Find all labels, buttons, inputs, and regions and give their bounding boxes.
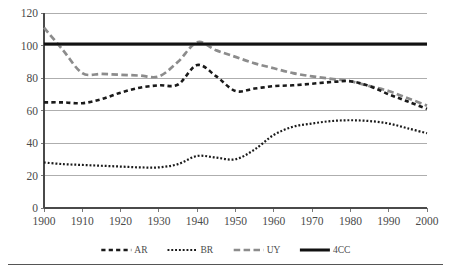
y-tick-label: 40 <box>27 137 39 149</box>
x-tick-label: 1910 <box>71 215 94 227</box>
y-tick-label: 60 <box>27 105 39 117</box>
series-line-uy <box>44 28 427 106</box>
x-tick-label: 1990 <box>377 215 400 227</box>
x-tick-label: 1960 <box>262 215 285 227</box>
y-axis-tick-labels: 020406080100120 <box>21 7 39 214</box>
y-tick-label: 20 <box>27 170 39 182</box>
y-tick-label: 100 <box>21 40 39 52</box>
x-tick-label: 1940 <box>186 215 209 227</box>
x-tick-label: 1950 <box>224 215 247 227</box>
legend-label-ar: AR <box>134 245 148 255</box>
series-line-br <box>44 120 427 167</box>
x-tick-label: 1900 <box>33 215 56 227</box>
chart-figure: 020406080100120 190019101920193019401950… <box>0 0 451 275</box>
y-tick-label: 120 <box>21 7 39 19</box>
gridlines <box>44 13 427 176</box>
x-tick-label: 1930 <box>147 215 170 227</box>
x-tick-label: 2000 <box>416 215 439 227</box>
x-axis-tick-labels: 1900191019201930194019501960197019801990… <box>33 215 439 227</box>
y-tick-label: 0 <box>32 202 38 214</box>
x-tick-label: 1980 <box>339 215 362 227</box>
legend-label-br: BR <box>201 245 214 255</box>
legend-label-uy: UY <box>267 245 281 255</box>
y-tick-label: 80 <box>27 72 39 84</box>
x-tick-label: 1970 <box>301 215 324 227</box>
line-chart: 020406080100120 190019101920193019401950… <box>0 0 451 275</box>
x-tick-label: 1920 <box>109 215 132 227</box>
chart-legend: ARBRUY4CC <box>101 245 350 255</box>
legend-label-4cc: 4CC <box>333 245 350 255</box>
data-series-group <box>44 28 427 168</box>
